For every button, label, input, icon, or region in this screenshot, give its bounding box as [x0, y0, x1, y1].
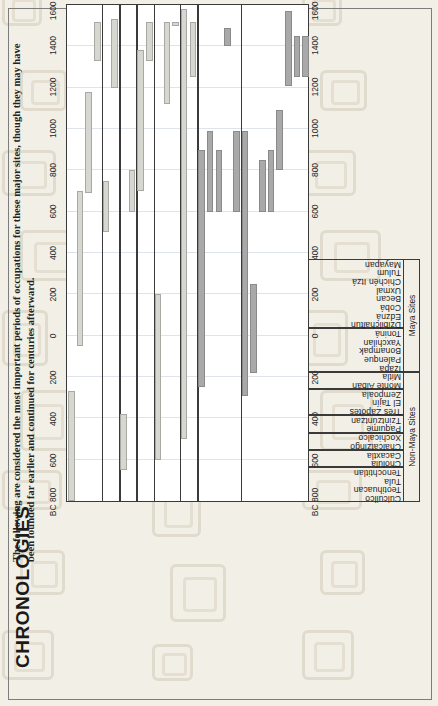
- axis-tick-label: 1000: [310, 119, 320, 138]
- site-label: Tula: [384, 477, 401, 487]
- site-label: Chichén Itzá: [352, 277, 401, 287]
- axis-tick-label: 600: [48, 204, 58, 218]
- axis-tick-label: 1000: [48, 119, 58, 138]
- series-label-maya: Maya Sites: [404, 259, 420, 372]
- site-label: Monte Albán: [352, 381, 401, 391]
- site-label: Uxmal: [376, 286, 401, 296]
- chronology-bar: [172, 22, 179, 26]
- site-group-box: Monte AlbánMitla: [309, 372, 404, 389]
- header-subtitle: The following are considered the most im…: [10, 22, 38, 562]
- chronology-bar: [120, 414, 127, 470]
- axis-tick-label: 1600 AD: [310, 0, 320, 20]
- site-group-box: ChalcatzingoXochicalco: [309, 433, 404, 450]
- plot-area: [66, 4, 309, 502]
- site-label: Cuicuilco: [365, 494, 401, 504]
- site-label: Izapa: [379, 364, 401, 374]
- chronology-bar: [85, 92, 92, 193]
- series-label-non-maya: Non-Maya Sites: [404, 372, 420, 502]
- chronology-bar: [68, 391, 75, 501]
- chronology-bar: [198, 150, 205, 388]
- site-label: Toniná: [375, 329, 401, 339]
- site-group-box: DzibilchaltunEdznáCobáBecanUxmalChichén …: [309, 259, 404, 328]
- site-label: Palenque: [364, 355, 401, 365]
- chronology-bar: [207, 131, 214, 212]
- axis-tick-label: 600: [48, 453, 58, 467]
- site-group-box: IzapaPalenqueBonampakYaxchilanToniná: [309, 328, 404, 371]
- site-label: Cacaxtla: [367, 451, 401, 461]
- axis-tick-label: 1400: [310, 36, 320, 55]
- axis-tick-label: 800: [48, 163, 58, 177]
- chronology-bar: [190, 22, 197, 78]
- rotated-content: CHRONOLOGIES The following are considere…: [8, 0, 430, 682]
- group-separator: [102, 5, 104, 501]
- axis-tick-label: 1400: [48, 36, 58, 55]
- chronology-bar: [250, 284, 257, 373]
- axis-tick-label: 800: [310, 163, 320, 177]
- axis-tick-label: 1200: [310, 78, 320, 97]
- chronology-bar: [268, 150, 275, 212]
- site-label: Cobá: [380, 303, 401, 313]
- axis-tick-label: 1200: [48, 78, 58, 97]
- chronology-bar: [155, 294, 162, 459]
- axis-tick-label: 1600 AD: [48, 0, 58, 20]
- site-group-box: CholulaCacaxtla: [309, 450, 404, 467]
- axis-tick-label: 400: [48, 246, 58, 260]
- chronology-bar: [111, 19, 118, 87]
- chart: BC 8006004002000200400600800100012001400…: [48, 4, 348, 624]
- chronology-bar: [77, 191, 84, 346]
- chronology-bar: [181, 9, 188, 439]
- site-label: Yaxchilan: [363, 338, 401, 348]
- site-label: Xochicalco: [358, 433, 401, 443]
- chronology-bar: [294, 36, 301, 77]
- site-label: Chalcatzingo: [350, 442, 401, 452]
- axis-tick-label: 400: [48, 412, 58, 426]
- axis-tick-label: 400: [310, 246, 320, 260]
- chronology-bar: [233, 131, 240, 212]
- chronology-bar: [302, 36, 309, 77]
- site-label: Zempoala: [362, 390, 401, 400]
- site-label: Tenochtitlan: [354, 468, 401, 478]
- chronology-bar: [146, 22, 153, 61]
- chronology-bar: [285, 11, 292, 85]
- axis-tick-label: 600: [310, 204, 320, 218]
- chronology-bar: [276, 110, 283, 170]
- axis-tick-label: 0: [48, 334, 58, 339]
- site-label: Mayapan: [365, 260, 401, 270]
- site-label: Edzná: [376, 312, 401, 322]
- site-label: Tzintzúntzan: [351, 416, 401, 426]
- chronology-bar: [242, 131, 249, 396]
- axis-tick-label: 200: [48, 287, 58, 301]
- chronology-bar: [224, 28, 231, 47]
- site-group-box: PaquiméTzintzúntzan: [309, 415, 404, 432]
- axis-tick-label: BC 800: [48, 488, 58, 516]
- chronology-bar: [129, 170, 136, 211]
- axis-tick-label: 200: [48, 370, 58, 384]
- site-label: Tres Zapotes: [349, 407, 401, 417]
- axis-ticks-top: BC 8006004002000200400600800100012001400…: [48, 4, 64, 502]
- chronology-bar: [94, 22, 101, 61]
- site-group-box: CuicuilcoTeotihuacanTulaTenochtitlan: [309, 467, 404, 502]
- chronology-bar: [137, 50, 144, 191]
- chronology-bar: [216, 150, 223, 212]
- chronology-bar: [103, 181, 110, 233]
- page-root: CHRONOLOGIES The following are considere…: [0, 0, 438, 706]
- chronology-bar: [259, 160, 266, 212]
- chronology-bar: [164, 22, 171, 105]
- site-group-box: Tres ZapotesEl TajínZempoala: [309, 389, 404, 415]
